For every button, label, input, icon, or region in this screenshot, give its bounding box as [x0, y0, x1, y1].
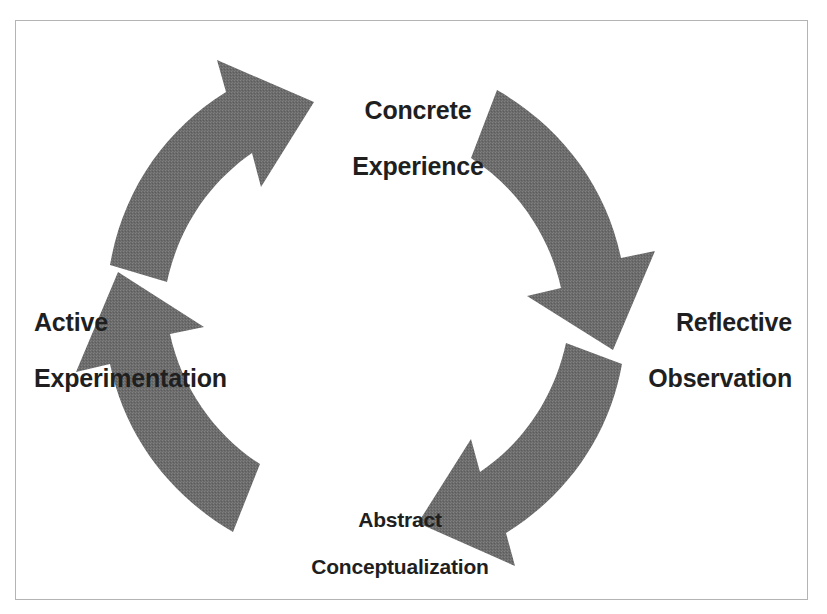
- node-label-abstract-conceptualization: Abstract Conceptualization: [290, 484, 510, 578]
- node-label-active-experimentation: Active Experimentation: [18, 280, 268, 392]
- experiential-learning-cycle-figure: Concrete Experience Reflective Observati…: [0, 0, 827, 614]
- node-label-reflective-observation-line1: Reflective: [676, 308, 792, 336]
- node-label-reflective-observation-line2: Observation: [648, 364, 792, 392]
- node-label-active-experimentation-line1: Active: [34, 308, 108, 336]
- node-label-active-experimentation-line2: Experimentation: [34, 364, 227, 392]
- node-label-concrete-experience-line1: Concrete: [365, 96, 472, 124]
- node-label-reflective-observation: Reflective Observation: [558, 280, 808, 392]
- arrow-active-experimentation-to-concrete-experience: [110, 60, 314, 282]
- node-label-abstract-conceptualization-line2: Conceptualization: [311, 555, 488, 578]
- node-label-concrete-experience: Concrete Experience: [318, 68, 518, 180]
- node-label-abstract-conceptualization-line1: Abstract: [358, 508, 442, 531]
- node-label-concrete-experience-line2: Experience: [352, 152, 483, 180]
